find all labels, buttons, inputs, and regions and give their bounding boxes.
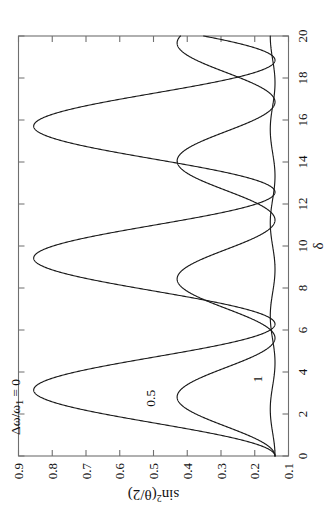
y-title-sin: sin (161, 487, 179, 503)
y-tick-label: 0.7 (78, 463, 93, 480)
y-tick-label: 0.5 (146, 463, 161, 479)
chart-figure: 02468101214161820 0.10.20.30.40.50.60.70… (0, 0, 331, 512)
curve-label-0: Δω/ω1 = 0 (8, 379, 25, 435)
chart-svg: 02468101214161820 0.10.20.30.40.50.60.70… (0, 0, 331, 512)
y-title-arg: (θ/2) (127, 486, 156, 503)
y-tick-label: 0.9 (11, 463, 26, 479)
y-axis-tick-labels: 0.10.20.30.40.50.60.70.80.9 (11, 463, 296, 480)
curve-1 (270, 36, 275, 456)
x-tick-label: 12 (294, 198, 309, 211)
y-tick-label: 0.2 (247, 463, 262, 479)
x-tick-label: 16 (294, 113, 309, 127)
x-axis-tick-labels: 02468101214161820 (294, 30, 309, 460)
svg-text:sin2(θ/2): sin2(θ/2) (127, 486, 178, 504)
curve-label-0-5: 0.5 (143, 390, 158, 407)
y-tick-label: 0.1 (281, 463, 296, 479)
y-axis-title: sin2(θ/2) (127, 486, 178, 504)
x-tick-label: 0 (294, 453, 309, 460)
x-tick-label: 10 (294, 240, 309, 253)
x-tick-label: 14 (294, 155, 309, 169)
y-tick-label: 0.6 (112, 463, 127, 480)
x-tick-label: 18 (294, 72, 309, 85)
y-tick-label: 0.4 (179, 463, 194, 480)
x-tick-label: 6 (294, 326, 309, 333)
x-tick-label: 20 (294, 30, 309, 43)
y-tick-label: 0.3 (213, 463, 228, 479)
curve-label-1: 1 (250, 376, 265, 383)
x-tick-label: 2 (294, 411, 309, 418)
x-tick-label: 4 (294, 368, 309, 375)
rotated-figure-container: 02468101214161820 0.10.20.30.40.50.60.70… (0, 0, 331, 512)
x-axis-title: δ (309, 242, 325, 249)
x-tick-label: 8 (294, 285, 309, 292)
y-tick-label: 0.8 (44, 463, 59, 479)
curve-0-5 (177, 36, 275, 456)
